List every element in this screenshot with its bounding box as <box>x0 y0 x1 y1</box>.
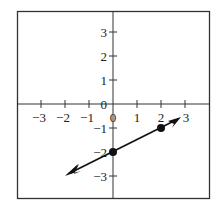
svg-text:−1: −1 <box>80 110 94 125</box>
svg-text:−2: −2 <box>56 110 70 125</box>
svg-text:0: 0 <box>110 110 117 125</box>
svg-text:−3: −3 <box>93 169 107 184</box>
svg-text:−3: −3 <box>32 110 46 125</box>
svg-text:3: 3 <box>101 25 108 40</box>
point-2-neg1 <box>157 124 165 132</box>
svg-text:2: 2 <box>101 49 108 64</box>
svg-text:−1: −1 <box>93 121 107 136</box>
coordinate-plane: −3 −2 −1 0 1 2 3 3 2 1 0 −1 −2 −3 <box>0 0 221 210</box>
svg-text:1: 1 <box>134 110 141 125</box>
svg-text:1: 1 <box>101 73 108 88</box>
x-tick-labels: −3 −2 −1 0 1 2 3 <box>32 110 189 125</box>
svg-text:2: 2 <box>158 110 165 125</box>
svg-text:3: 3 <box>183 110 190 125</box>
svg-text:0: 0 <box>101 97 108 112</box>
point-0-neg2 <box>109 148 117 156</box>
